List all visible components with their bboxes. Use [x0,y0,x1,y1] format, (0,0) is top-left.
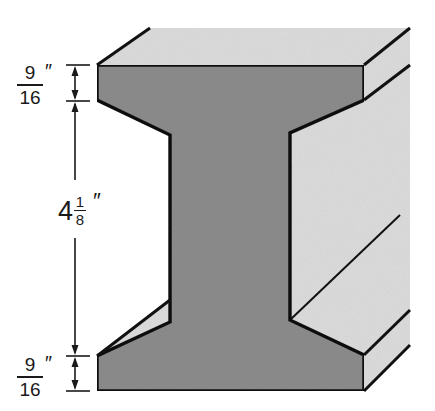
denominator: 16 [19,380,40,399]
dimension-lines [66,65,90,391]
fraction-bar [17,84,43,86]
bottom-flange-dimension-label: 9 16 ″ [17,355,43,399]
top-flange-dimension-label: 9 16 ″ [17,63,43,107]
inch-mark: ″ [44,353,51,373]
arrow-up-icon [72,66,79,76]
fraction-bar [17,376,43,378]
inch-mark: ″ [92,190,100,212]
arrow-down-icon [72,345,79,355]
arrow-up-icon [72,102,79,112]
numerator: 9 [25,63,36,82]
numerator: 1 [76,194,84,209]
denominator: 8 [76,212,84,227]
arrow-down-icon [72,90,79,100]
numerator: 9 [25,355,36,374]
whole-number: 4 [58,198,73,225]
inch-mark: ″ [44,61,51,81]
arrow-up-icon [72,357,79,367]
denominator: 16 [19,88,40,107]
fraction: 1 8 [74,194,86,227]
fraction: 9 16 [17,63,43,107]
fraction: 9 16 [17,355,43,399]
arrow-down-icon [72,380,79,390]
